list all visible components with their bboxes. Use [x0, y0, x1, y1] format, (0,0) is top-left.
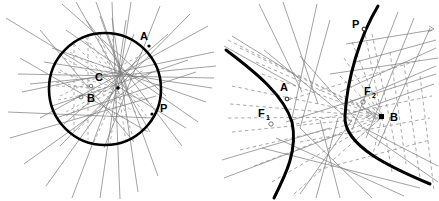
construction-line	[360, 126, 438, 166]
construction-line	[264, 50, 352, 122]
dashed-chord	[70, 52, 152, 104]
focal-radius	[228, 117, 382, 118]
label-p-right: P	[352, 18, 359, 30]
label-c-left: C	[95, 71, 103, 83]
label-f1-subscript: 1	[266, 114, 270, 121]
circle-secant-lines	[6, 2, 216, 199]
point-p-marker	[362, 27, 366, 31]
cross-line	[390, 52, 406, 164]
point-a-marker	[285, 97, 289, 101]
secant-line	[8, 112, 152, 118]
geometry-figure: A C B P	[0, 0, 439, 201]
label-f1: F	[258, 107, 265, 119]
construction-line	[300, 20, 330, 128]
construction-line	[232, 36, 300, 78]
construction-line	[224, 46, 296, 86]
figure-canvas: A C B P	[0, 0, 439, 201]
label-a-left: A	[140, 30, 148, 42]
hyperbola-left-branch	[226, 50, 294, 198]
label-b-right: B	[390, 111, 398, 123]
focal-radius	[232, 117, 382, 132]
cross-line	[420, 76, 434, 190]
point-p-marker	[150, 112, 153, 115]
label-p-left: P	[160, 102, 167, 114]
right-panel-hyperbola-construction: P A F 1 F 2 B	[222, 2, 438, 198]
construction-line	[259, 4, 302, 92]
label-a-right: A	[280, 81, 288, 93]
construction-line	[356, 40, 436, 62]
point-a-marker	[147, 44, 150, 47]
label-f2: F	[364, 85, 371, 97]
label-f2-subscript: 2	[372, 92, 376, 99]
hyperbola-solid-lines	[222, 2, 438, 198]
point-b-marker	[379, 114, 384, 119]
focal-radius	[294, 117, 382, 194]
dashed-chord	[64, 58, 118, 88]
construction-line	[350, 84, 434, 114]
point-c-marker	[89, 84, 93, 88]
construction-line	[346, 30, 432, 44]
focus-f1-marker	[269, 122, 273, 126]
cross-line	[300, 118, 430, 142]
construction-line	[300, 120, 352, 194]
left-panel-circle-construction: A C B P	[6, 2, 216, 199]
label-b-left: B	[87, 92, 95, 104]
pencil-center-marker	[116, 86, 120, 90]
construction-line	[300, 128, 372, 198]
